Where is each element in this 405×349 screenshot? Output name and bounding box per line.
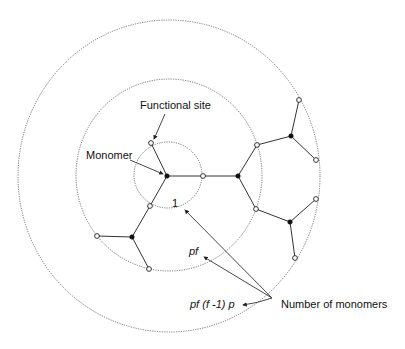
central-monomer xyxy=(165,174,170,179)
functional-site-nodes xyxy=(95,98,319,272)
gen1-count-label: pf xyxy=(189,246,198,257)
gen2-count-label: pf (f -1) p xyxy=(190,299,235,310)
functional-site-label: Functional site xyxy=(140,100,211,111)
gen2-arrow xyxy=(243,298,272,305)
number-of-monomers-label: Number of monomers xyxy=(281,299,387,310)
polymer-diagram xyxy=(0,0,405,349)
monomer-label: Monomer xyxy=(86,150,132,161)
bonds xyxy=(97,100,316,269)
gen0-count-label: 1 xyxy=(172,198,178,209)
functional-site-arrow xyxy=(154,114,165,139)
